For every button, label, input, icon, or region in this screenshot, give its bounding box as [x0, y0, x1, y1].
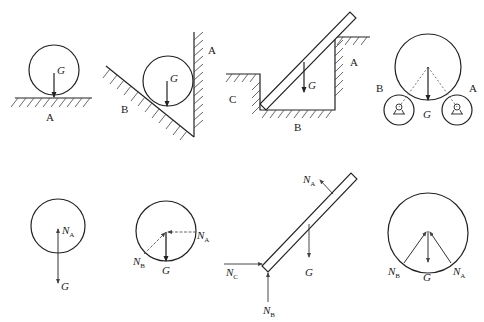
fbd4-cylinder: NB G NA — [387, 193, 468, 283]
label-b: B — [294, 121, 301, 133]
label-c: C — [229, 93, 236, 105]
label-a: A — [350, 56, 358, 68]
wall-label-a: A — [208, 44, 216, 56]
normal-force-b-label: NB — [387, 265, 400, 280]
ball — [143, 56, 193, 106]
fig3-rod-in-pit: G A B C — [226, 12, 370, 133]
weight-label: G — [423, 108, 431, 120]
normal-force-b-arrow — [404, 232, 426, 263]
center-line-a — [428, 67, 457, 107]
fbd3-rod: NA G NC NB — [224, 173, 357, 319]
normal-force-a-label: NA — [302, 173, 315, 188]
label-b: B — [376, 82, 383, 94]
label-a: A — [469, 82, 477, 94]
fbd2-ball-in-corner: NA NB G — [132, 201, 209, 276]
free-body-diagram-figure: G A G A B — [0, 0, 484, 322]
weight-label: G — [308, 79, 316, 91]
normal-force-a-arrow — [430, 232, 451, 263]
normal-force-c-label: NC — [225, 266, 238, 281]
normal-force-a-label: NA — [452, 265, 465, 280]
weight-label: G — [423, 271, 431, 283]
weight-label: G — [162, 264, 170, 276]
weight-label: G — [57, 64, 65, 76]
fig2-ball-in-corner: G A B — [103, 32, 216, 140]
incline-label-b: B — [121, 103, 128, 115]
weight-label: G — [305, 266, 313, 278]
rod — [260, 12, 356, 110]
normal-force-b-arrow — [144, 233, 165, 254]
fig4-cylinder-on-rollers: G B A — [376, 34, 477, 125]
wall-hatch — [194, 32, 203, 128]
fig1-ball-on-floor: G A — [11, 45, 92, 123]
roller-a-pin-support — [451, 104, 463, 114]
roller-b-pin-support — [393, 104, 405, 114]
normal-force-b-label: NB — [262, 304, 275, 319]
normal-force-a-label: NA — [61, 224, 74, 239]
floor-hatch — [11, 98, 90, 107]
contact-label-a: A — [46, 111, 54, 123]
normal-force-a-arrow — [320, 180, 333, 194]
incline-surface — [106, 66, 194, 137]
weight-label: G — [170, 72, 178, 84]
normal-force-b-label: NB — [132, 255, 145, 270]
normal-force-a-label: NA — [196, 229, 209, 244]
weight-label: G — [61, 280, 69, 292]
fbd1-ball-on-floor: NA G — [31, 199, 85, 292]
center-line-b — [399, 67, 428, 107]
